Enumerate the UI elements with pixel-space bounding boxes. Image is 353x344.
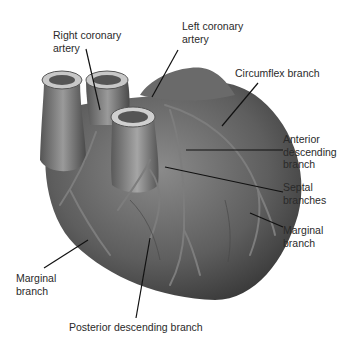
- label-septal-branches: Septal branches: [283, 181, 326, 206]
- label-left-coronary-artery: Left coronary artery: [182, 20, 243, 45]
- label-right-coronary-artery: Right coronary artery: [53, 29, 121, 54]
- left-atrium: [140, 68, 235, 101]
- pulmonary-trunk: [111, 118, 158, 193]
- heart-diagram: Right coronary artery Left coronary arte…: [0, 0, 353, 344]
- heart-body: [45, 82, 301, 300]
- label-marginal-branch-right: Marginal branch: [283, 224, 323, 249]
- label-anterior-descending-branch: Anterior descending branch: [283, 133, 337, 171]
- label-marginal-branch-left: Marginal branch: [16, 272, 56, 297]
- superior-vena-cava: [40, 80, 86, 171]
- label-posterior-descending-branch: Posterior descending branch: [69, 321, 203, 334]
- label-circumflex-branch: Circumflex branch: [235, 67, 320, 80]
